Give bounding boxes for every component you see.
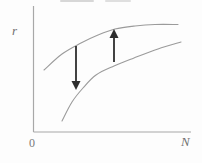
- down-arrow-head: [72, 81, 81, 90]
- annotation-arrows: [72, 29, 119, 90]
- upper-curve: [44, 24, 178, 70]
- origin-label: 0: [29, 137, 35, 149]
- y-axis-label: r: [12, 24, 17, 37]
- x-axis-label: N: [181, 135, 190, 148]
